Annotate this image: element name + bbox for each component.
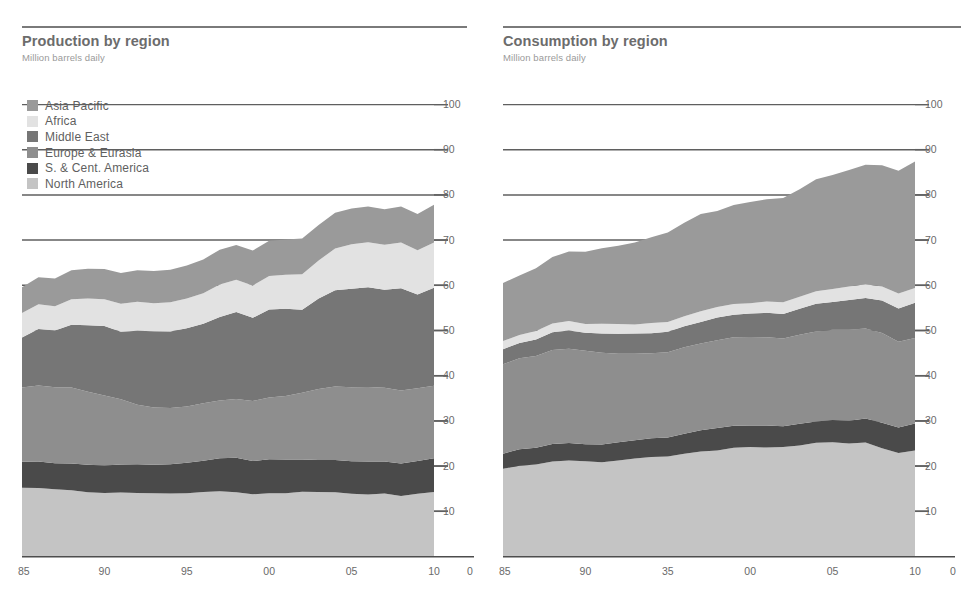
legend-item-label: Europe & Eurasia — [45, 146, 141, 160]
x-axis-tick-label: 85 — [18, 565, 30, 577]
x-axis-tick-label: 85 — [499, 565, 511, 577]
legend-item-label: Middle East — [45, 130, 109, 144]
legend-item: Africa — [27, 114, 149, 130]
x-axis-tick-label: 95 — [181, 565, 193, 577]
legend-item-label: Africa — [45, 114, 77, 128]
panel-production: Production by region Million barrels dai… — [0, 0, 485, 607]
legend-item-label: S. & Cent. America — [45, 161, 149, 175]
legend-item-label: Asia Pacific — [45, 99, 109, 113]
x-axis-labels-production: 8590950005100 — [0, 0, 485, 607]
legend-item-label: North America — [45, 177, 123, 191]
x-axis-tick-label: 05 — [827, 565, 839, 577]
x-axis-tick-label: 90 — [580, 565, 592, 577]
figure-page: Production by region Million barrels dai… — [0, 0, 971, 607]
legend-swatch-icon — [27, 131, 38, 142]
panel-consumption: Consumption by region Million barrels da… — [485, 0, 971, 607]
legend-item: Middle East — [27, 129, 149, 145]
x-axis-tick-label-zero: 0 — [467, 565, 473, 577]
x-axis-tick-label: 35 — [662, 565, 674, 577]
legend-item: Asia Pacific — [27, 98, 149, 114]
x-axis-tick-label-zero: 0 — [950, 565, 956, 577]
x-axis-tick-label: 90 — [99, 565, 111, 577]
x-axis-tick-label: 10 — [909, 565, 921, 577]
x-axis-labels-consumption: 8590350005100 — [485, 0, 971, 607]
legend-swatch-icon — [27, 116, 38, 127]
x-axis-tick-label: 05 — [346, 565, 358, 577]
chart-legend: Asia PacificAfricaMiddle EastEurope & Eu… — [27, 98, 149, 192]
legend-item: North America — [27, 176, 149, 192]
legend-swatch-icon — [27, 178, 38, 189]
legend-item: S. & Cent. America — [27, 160, 149, 176]
legend-swatch-icon — [27, 100, 38, 111]
x-axis-tick-label: 00 — [263, 565, 275, 577]
legend-item: Europe & Eurasia — [27, 145, 149, 161]
legend-swatch-icon — [27, 147, 38, 158]
x-axis-tick-label: 00 — [744, 565, 756, 577]
legend-swatch-icon — [27, 163, 38, 174]
x-axis-tick-label: 10 — [428, 565, 440, 577]
